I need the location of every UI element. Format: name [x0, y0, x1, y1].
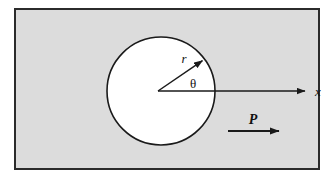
diagram-svg: r θ x P: [0, 0, 332, 183]
x-axis-label: x: [314, 84, 321, 99]
load-label: P: [249, 112, 258, 127]
figure-canvas: r θ x P: [0, 0, 332, 183]
theta-angle-label: θ: [190, 76, 196, 91]
